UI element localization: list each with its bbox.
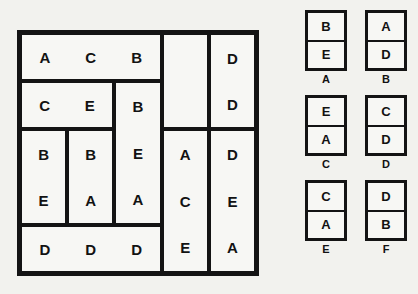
answer-option-letter: C [368,98,404,127]
piece-letter: A [69,177,112,223]
piece-letter: B [114,35,160,79]
piece-letter: B [69,131,112,177]
puzzle-piece: ACE [162,129,209,273]
puzzle-piece: CE [20,81,114,129]
piece-letter: A [164,131,207,178]
answer-option-letter: A [368,13,404,42]
answer-option[interactable]: EAC [305,95,347,170]
piece-letter: E [211,178,254,225]
piece-letter: D [68,227,114,271]
answer-option-letter: D [368,127,404,154]
piece-letter: D [211,81,254,127]
piece-letter: C [68,35,114,79]
piece-letter: D [211,35,254,81]
answer-option-label: D [365,159,407,170]
puzzle-piece: BE [20,129,67,225]
answer-option-letter: E [308,42,344,69]
piece-letter: D [211,131,254,178]
empty-cell [164,81,207,127]
answer-option-letter: D [368,42,404,69]
piece-letter: B [22,131,65,177]
piece-letter: E [67,83,112,127]
piece-letter: A [116,176,159,223]
answer-option-tile[interactable]: CA [305,180,347,241]
answer-option-label: F [365,244,407,255]
answer-option[interactable]: CDD [365,95,407,170]
piece-letter: C [164,178,207,225]
answer-option-label: C [305,159,347,170]
answer-option-letter: E [308,98,344,127]
piece-letter: D [114,227,160,271]
piece-letter: E [116,130,159,177]
puzzle-piece: ACB [20,33,162,81]
puzzle-piece: DD [209,33,256,129]
piece-letter: A [22,35,68,79]
answer-option-tile[interactable]: DB [365,180,407,241]
piece-letter: C [22,83,67,127]
answer-option-letter: A [308,212,344,239]
puzzle-piece: DDD [20,225,162,273]
answer-option-letter: B [368,212,404,239]
answer-option-label: E [305,244,347,255]
piece-letter: B [116,83,159,130]
answer-option-label: B [365,74,407,85]
answer-option-tile[interactable]: EA [305,95,347,156]
answer-option[interactable]: DBF [365,180,407,255]
puzzle-piece: BEA [114,81,161,225]
answer-option[interactable]: CAE [305,180,347,255]
piece-letter: E [22,177,65,223]
empty-cell [164,35,207,81]
answer-option-label: A [305,74,347,85]
answer-option-letter: D [368,183,404,212]
answer-option-tile[interactable]: CD [365,95,407,156]
answer-option[interactable]: ADB [365,10,407,85]
piece-letter: A [211,224,254,271]
answer-option-letter: C [308,183,344,212]
answer-options-panel: BEAADBEACCDDCAEDBF [300,10,418,288]
puzzle-piece: BA [67,129,114,225]
answer-option-letter: B [308,13,344,42]
piece-letter: E [164,224,207,271]
answer-option-letter: A [308,127,344,154]
answer-option-tile[interactable]: BE [305,10,347,71]
puzzle-grid: ACBDDCEBEABEBAACEDEADDD [17,30,259,276]
answer-option[interactable]: BEA [305,10,347,85]
piece-letter: D [22,227,68,271]
puzzle-empty-slot[interactable] [162,33,209,129]
puzzle-piece: DEA [209,129,256,273]
answer-option-tile[interactable]: AD [365,10,407,71]
